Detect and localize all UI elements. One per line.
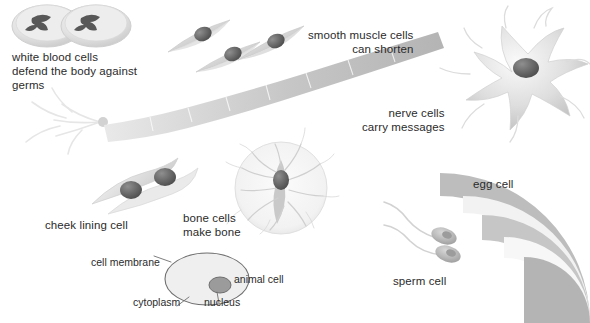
egg-cell-illustration (440, 173, 590, 323)
white-blood-cells-illustration (12, 5, 131, 47)
caption-cheek-lining-cell: cheek lining cell (45, 218, 128, 232)
figure-illustration (0, 0, 590, 323)
caption-white-blood-cells: white blood cells defend the body agains… (12, 50, 137, 92)
caption-egg-cell: egg cell (473, 177, 513, 191)
bone-cells-illustration (226, 128, 339, 234)
label-nucleus: nucleus (204, 296, 240, 309)
cell-types-figure: white blood cells defend the body agains… (0, 0, 590, 323)
caption-smooth-muscle-cells: smooth muscle cells can shorten (308, 28, 413, 56)
caption-nerve-cells: nerve cells carry messages (362, 106, 445, 134)
caption-bone-cells: bone cells make bone (183, 211, 241, 239)
label-animal-cell: animal cell (234, 273, 284, 286)
label-cytoplasm: cytoplasm (133, 296, 180, 309)
smooth-muscle-cells-illustration (168, 20, 304, 72)
cheek-lining-cell-illustration (92, 158, 198, 214)
sperm-cell-illustration (384, 202, 463, 266)
caption-sperm-cell: sperm cell (393, 274, 446, 288)
label-cell-membrane: cell membrane (91, 256, 160, 269)
